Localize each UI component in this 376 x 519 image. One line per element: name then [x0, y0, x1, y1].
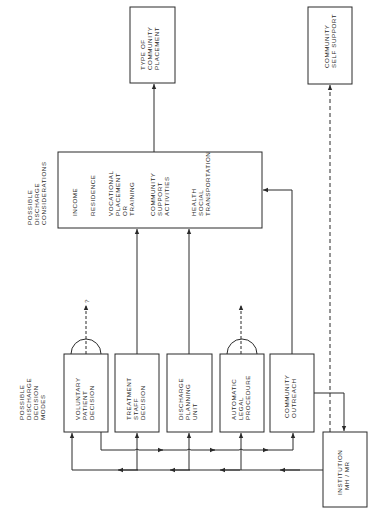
consideration-income: INCOME — [71, 188, 78, 216]
mode-automatic-label: AUTOMATIC LEGAL PROCEDURE — [230, 375, 251, 420]
community-self-support-label: COMMUNITY SELF SUPPORT — [323, 14, 337, 68]
institution-label: INSTITUTION MH / MR — [336, 447, 350, 495]
considerations-heading: POSSIBLE DISCHARGE CONSIDERATIONS — [26, 161, 47, 225]
consideration-residence: RESIDENCE — [89, 174, 96, 216]
modes-heading: POSSIBLE DISCHARGE DECISION MODES — [18, 375, 46, 420]
mode-discharge-label: DISCHARGE PLANNING UNIT — [177, 375, 198, 420]
type-of-community-placement-label: TYPE OF COMMUNITY PLACEMENT — [139, 24, 160, 70]
mode-outreach-label: COMMUNITY OUTREACH — [283, 372, 297, 418]
mode-treatment-label: TREATMENT STAFF DECISION — [125, 375, 146, 420]
mode-voluntary-label: VOLUNTARY PATIENT DECISION — [74, 375, 95, 420]
consideration-health-social-transportation: HEALTH SOCIAL TRANSPORTATION — [190, 152, 211, 216]
consideration-community-support: COMMUNITY SUPPORT ACTIVITIES — [149, 170, 170, 216]
mode-voluntary-exit-label: ? — [83, 299, 90, 303]
discharge-flow-diagram: POSSIBLE DISCHARGE CONSIDERATIONS POSSIB… — [0, 0, 376, 519]
consideration-vocational: VOCATIONAL PLACEMENT OR TRAINING — [107, 168, 135, 216]
